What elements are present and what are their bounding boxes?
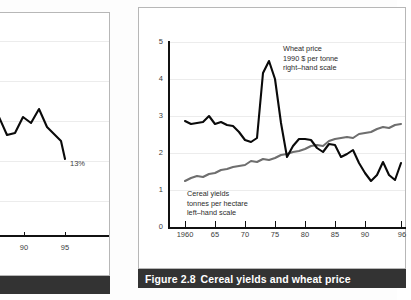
- annotation-wheat-line3: right–hand scale: [283, 63, 338, 73]
- caption-bar-left: [0, 276, 110, 294]
- plot-area-left: 85 90 95 13%: [0, 13, 109, 275]
- x-tick-label: 95: [53, 244, 77, 252]
- x-tick-label: 90: [12, 244, 36, 252]
- figure-title: Cereal yields and wheat price: [201, 273, 351, 285]
- x-axis-left: [0, 235, 109, 237]
- cereal-yields-line: [185, 124, 401, 181]
- figure-panel-right: 5 4 3 2 1 0 1960 65 70 75 80 85 90 96: [138, 7, 406, 269]
- figure-number: Figure 2.8: [145, 273, 196, 285]
- annotation-wheat-line1: Wheat price: [283, 44, 338, 54]
- annotation-cereal-line1: Cereal yields: [187, 189, 248, 199]
- series-line-left-partial: [0, 13, 111, 277]
- annotation-wheat-line2: 1990 $ per tonne: [283, 54, 338, 64]
- annotation-cereal-line2: tonnes per hectare: [187, 199, 248, 209]
- annotation-cereal-line3: left–hand scale: [187, 208, 248, 218]
- x-tick: [24, 232, 25, 237]
- wheat-price-line: [185, 61, 401, 181]
- annotation-wheat-price: Wheat price 1990 $ per tonne right–hand …: [283, 44, 338, 73]
- data-label-13-percent: 13%: [70, 159, 85, 168]
- caption-bar-right: Figure 2.8Cereal yields and wheat price: [138, 269, 406, 288]
- plot-area-right: 5 4 3 2 1 0 1960 65 70 75 80 85 90 96: [139, 8, 405, 268]
- series-lines-right: [139, 8, 407, 270]
- x-tick: [65, 232, 66, 237]
- figure-caption: Figure 2.8Cereal yields and wheat price: [138, 273, 351, 285]
- annotation-cereal-yields: Cereal yields tonnes per hectare left–ha…: [187, 189, 248, 218]
- figure-panel-left-cropped: 85 90 95 13%: [0, 12, 110, 276]
